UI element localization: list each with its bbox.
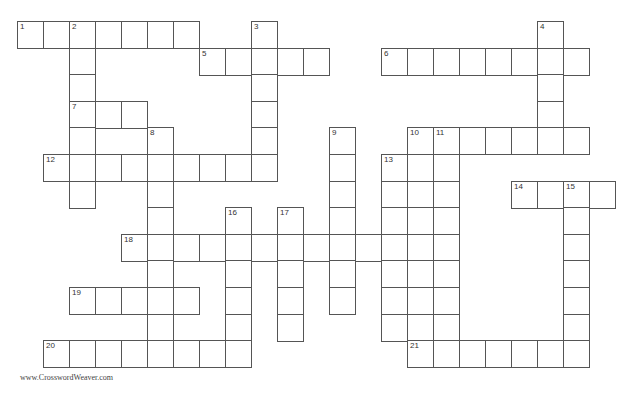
crossword-cell[interactable]	[225, 154, 252, 182]
crossword-cell[interactable]	[433, 48, 460, 76]
crossword-cell[interactable]	[381, 181, 408, 209]
crossword-cell[interactable]	[121, 340, 148, 368]
crossword-cell[interactable]	[407, 287, 434, 315]
crossword-cell[interactable]	[277, 48, 304, 76]
crossword-cell[interactable]: 8	[147, 127, 174, 155]
crossword-cell[interactable]	[537, 48, 564, 76]
crossword-cell[interactable]	[381, 234, 408, 262]
crossword-cell[interactable]	[121, 154, 148, 182]
crossword-cell[interactable]	[95, 101, 122, 129]
crossword-cell[interactable]	[563, 314, 590, 342]
crossword-cell[interactable]: 21	[407, 340, 434, 368]
crossword-cell[interactable]: 19	[69, 287, 96, 315]
crossword-cell[interactable]	[225, 234, 252, 262]
crossword-cell[interactable]	[381, 260, 408, 288]
crossword-cell[interactable]	[537, 101, 564, 129]
crossword-cell[interactable]	[173, 154, 200, 182]
crossword-cell[interactable]	[511, 340, 538, 368]
crossword-cell[interactable]	[563, 260, 590, 288]
crossword-cell[interactable]	[433, 340, 460, 368]
crossword-cell[interactable]	[251, 74, 278, 102]
crossword-cell[interactable]	[121, 21, 148, 49]
crossword-cell[interactable]	[589, 181, 616, 209]
crossword-cell[interactable]: 12	[43, 154, 70, 182]
crossword-cell[interactable]: 11	[433, 127, 460, 155]
crossword-cell[interactable]	[147, 181, 174, 209]
crossword-cell[interactable]	[381, 207, 408, 235]
crossword-cell[interactable]	[225, 48, 252, 76]
crossword-cell[interactable]	[563, 48, 590, 76]
crossword-cell[interactable]	[329, 154, 356, 182]
crossword-cell[interactable]	[407, 260, 434, 288]
crossword-cell[interactable]: 13	[381, 154, 408, 182]
crossword-cell[interactable]	[277, 314, 304, 342]
crossword-cell[interactable]	[173, 234, 200, 262]
crossword-cell[interactable]	[199, 154, 226, 182]
crossword-cell[interactable]	[407, 207, 434, 235]
crossword-cell[interactable]	[147, 234, 174, 262]
crossword-cell[interactable]	[329, 287, 356, 315]
crossword-cell[interactable]	[563, 127, 590, 155]
crossword-cell[interactable]	[277, 287, 304, 315]
crossword-cell[interactable]	[407, 314, 434, 342]
crossword-cell[interactable]	[147, 21, 174, 49]
crossword-cell[interactable]	[563, 207, 590, 235]
crossword-cell[interactable]	[147, 154, 174, 182]
crossword-cell[interactable]	[407, 181, 434, 209]
crossword-cell[interactable]	[433, 234, 460, 262]
crossword-cell[interactable]: 7	[69, 101, 96, 129]
crossword-cell[interactable]	[537, 127, 564, 155]
crossword-cell[interactable]: 3	[251, 21, 278, 49]
crossword-cell[interactable]: 14	[511, 181, 538, 209]
crossword-cell[interactable]	[95, 154, 122, 182]
crossword-cell[interactable]	[433, 154, 460, 182]
crossword-cell[interactable]	[199, 340, 226, 368]
crossword-cell[interactable]	[121, 287, 148, 315]
crossword-cell[interactable]	[381, 287, 408, 315]
crossword-cell[interactable]	[433, 181, 460, 209]
crossword-cell[interactable]	[121, 101, 148, 129]
crossword-cell[interactable]	[225, 287, 252, 315]
crossword-cell[interactable]	[537, 74, 564, 102]
crossword-cell[interactable]	[69, 74, 96, 102]
crossword-cell[interactable]	[459, 48, 486, 76]
crossword-cell[interactable]	[433, 207, 460, 235]
crossword-cell[interactable]	[329, 260, 356, 288]
crossword-cell[interactable]	[433, 260, 460, 288]
crossword-cell[interactable]	[173, 340, 200, 368]
crossword-cell[interactable]: 20	[43, 340, 70, 368]
crossword-cell[interactable]	[251, 127, 278, 155]
crossword-cell[interactable]: 18	[121, 234, 148, 262]
crossword-cell[interactable]	[147, 287, 174, 315]
crossword-cell[interactable]	[407, 48, 434, 76]
crossword-cell[interactable]	[251, 48, 278, 76]
crossword-cell[interactable]	[173, 21, 200, 49]
crossword-cell[interactable]	[147, 260, 174, 288]
crossword-cell[interactable]	[69, 48, 96, 76]
crossword-cell[interactable]	[147, 207, 174, 235]
crossword-cell[interactable]	[433, 287, 460, 315]
crossword-cell[interactable]	[329, 207, 356, 235]
crossword-cell[interactable]	[303, 48, 330, 76]
crossword-cell[interactable]	[277, 234, 304, 262]
crossword-cell[interactable]	[485, 127, 512, 155]
crossword-cell[interactable]	[147, 314, 174, 342]
crossword-cell[interactable]	[251, 101, 278, 129]
crossword-cell[interactable]	[511, 127, 538, 155]
crossword-cell[interactable]	[329, 234, 356, 262]
crossword-cell[interactable]	[407, 154, 434, 182]
crossword-cell[interactable]	[225, 314, 252, 342]
crossword-cell[interactable]	[69, 127, 96, 155]
crossword-cell[interactable]	[95, 287, 122, 315]
crossword-cell[interactable]	[173, 287, 200, 315]
crossword-cell[interactable]: 9	[329, 127, 356, 155]
crossword-cell[interactable]	[381, 314, 408, 342]
crossword-cell[interactable]	[199, 234, 226, 262]
crossword-cell[interactable]	[95, 21, 122, 49]
crossword-cell[interactable]	[251, 234, 278, 262]
crossword-cell[interactable]: 5	[199, 48, 226, 76]
crossword-cell[interactable]	[95, 340, 122, 368]
crossword-cell[interactable]	[433, 314, 460, 342]
crossword-cell[interactable]	[43, 21, 70, 49]
crossword-cell[interactable]	[407, 234, 434, 262]
